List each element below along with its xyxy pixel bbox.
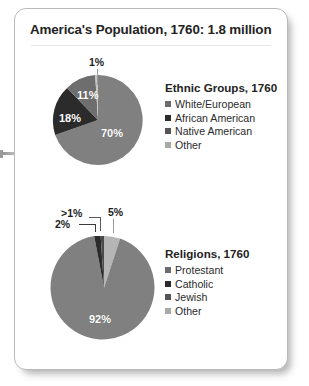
legend-item-native-american[interactable]: Native American: [165, 125, 285, 137]
slice-value-catholic: 2%: [55, 218, 70, 230]
legend-label-native-american: Native American: [175, 125, 252, 137]
leader-line-jewish-horizontal: [89, 217, 101, 218]
legend-label-religion-other: Other: [175, 305, 202, 317]
leader-line-catholic: [95, 224, 96, 232]
legend-title-religions: Religions, 1760: [165, 247, 285, 260]
legend-item-african-american[interactable]: African American: [165, 112, 285, 124]
legend-label-african-american: African American: [175, 112, 255, 124]
legend-swatch-catholic: [165, 281, 171, 287]
leader-line-ethnic-other: [97, 69, 98, 85]
legend-item-jewish[interactable]: Jewish: [165, 291, 285, 303]
legend-label-jewish: Jewish: [175, 291, 207, 303]
leader-line-catholic-horizontal: [79, 224, 96, 225]
pie-ethnic-groups: 70% 18% 11%: [41, 73, 157, 169]
legend-label-ethnic-other: Other: [175, 139, 202, 151]
legend-swatch-african-american: [165, 115, 171, 121]
chart-ethnic-groups: 70% 18% 11% 1% Ethnic Groups, 1760 White…: [15, 9, 289, 169]
slice-value-ethnic-other: 1%: [89, 56, 104, 68]
legend-swatch-jewish: [165, 294, 171, 300]
slice-value-white-european: 70%: [101, 127, 123, 139]
pie-religions-svg: [37, 231, 167, 347]
infographic-card: America's Population, 1760: 1.8 million …: [14, 8, 288, 370]
legend-swatch-native-american: [165, 128, 171, 134]
leader-line-religion-other: [113, 219, 114, 233]
legend-item-religion-other[interactable]: Other: [165, 305, 285, 317]
slice-value-religion-other: 5%: [108, 206, 123, 218]
slice-value-native-american: 11%: [77, 89, 98, 101]
legend-title-ethnic: Ethnic Groups, 1760: [165, 81, 285, 94]
legend-item-ethnic-other[interactable]: Other: [165, 139, 285, 151]
legend-label-protestant: Protestant: [175, 264, 223, 276]
legend-item-white-european[interactable]: White/European: [165, 98, 285, 110]
leader-line-jewish: [100, 217, 101, 231]
page-edge-tick: [0, 150, 3, 158]
chart-religions: 92% 5% >1% 2% Religions, 1760 Protestant…: [15, 179, 289, 359]
legend-swatch-religion-other: [165, 308, 171, 314]
legend-label-catholic: Catholic: [175, 278, 213, 290]
legend-label-white-european: White/European: [175, 98, 251, 110]
legend-swatch-protestant: [165, 267, 171, 273]
slice-value-protestant: 92%: [89, 313, 111, 325]
pie-religions: 92%: [37, 231, 167, 347]
legend-item-protestant[interactable]: Protestant: [165, 264, 285, 276]
slice-value-african-american: 18%: [59, 112, 81, 124]
legend-ethnic-groups: Ethnic Groups, 1760 White/European Afric…: [165, 81, 285, 152]
legend-religions: Religions, 1760 Protestant Catholic Jewi…: [165, 247, 285, 318]
legend-item-catholic[interactable]: Catholic: [165, 278, 285, 290]
legend-swatch-ethnic-other: [165, 142, 171, 148]
legend-swatch-white-european: [165, 101, 171, 107]
